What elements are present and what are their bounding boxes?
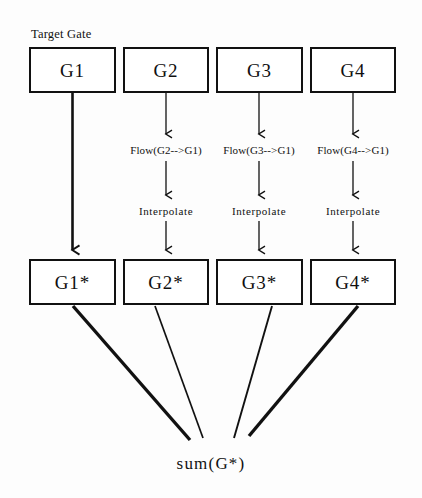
gate-box-g1-star[interactable]: G1* <box>29 259 116 305</box>
gate-box-g4-star[interactable]: G4* <box>310 259 396 305</box>
interpolate-step-label-g2: Interpolate <box>139 206 193 217</box>
line-g1star-to-sum <box>73 306 190 440</box>
interpolate-step-label-g3: Interpolate <box>232 206 286 217</box>
gate-label-g3: G3 <box>247 61 272 80</box>
gate-label-g2-star: G2* <box>148 273 184 292</box>
gate-box-g2[interactable]: G2 <box>123 47 209 93</box>
interpolate-step-label-g4: Interpolate <box>326 206 380 217</box>
gate-label-g2: G2 <box>153 61 178 80</box>
flow-step-label-g3: Flow(G3-->G1) <box>223 145 295 156</box>
gate-label-g1-star: G1* <box>55 273 91 292</box>
gate-label-g4-star: G4* <box>335 273 371 292</box>
line-g2star-to-sum <box>155 306 203 438</box>
line-g4star-to-sum <box>249 306 358 436</box>
flow-step-label-g2: Flow(G2-->G1) <box>130 145 202 156</box>
line-g3star-to-sum <box>234 306 272 438</box>
gate-box-g3-star[interactable]: G3* <box>216 259 303 305</box>
gate-box-g3[interactable]: G3 <box>216 47 303 93</box>
target-gate-caption: Target Gate <box>31 28 91 41</box>
gate-box-g4[interactable]: G4 <box>310 47 396 93</box>
gate-box-g1[interactable]: G1 <box>29 47 116 93</box>
gate-label-g1: G1 <box>60 61 85 80</box>
gate-box-g2-star[interactable]: G2* <box>123 259 209 305</box>
gate-label-g4: G4 <box>340 61 365 80</box>
gate-label-g3-star: G3* <box>242 273 278 292</box>
sum-result-label: sum(G*) <box>177 455 246 472</box>
flow-diagram-canvas: Target Gate G1 G2 G3 G4 Flow(G2-->G1) Fl… <box>0 0 422 498</box>
flow-step-label-g4: Flow(G4-->G1) <box>317 145 389 156</box>
